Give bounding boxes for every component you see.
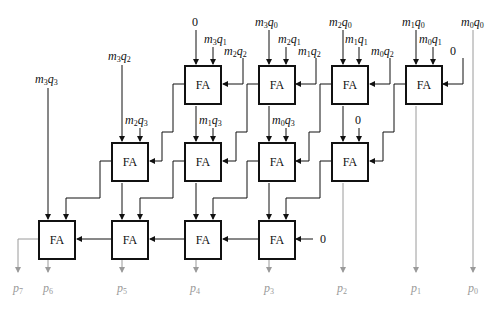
full-adder-r3-c2: FA (111, 220, 149, 260)
fa-label: FA (270, 155, 284, 170)
fa-label: FA (343, 78, 357, 93)
full-adder-r2-c1: FA (111, 142, 149, 182)
label-m2q2: m2q2 (224, 45, 247, 59)
label-m1q1: m1q1 (345, 33, 368, 47)
input-zero-r1c4: 0 (450, 45, 456, 57)
label-m0q1: m0q1 (419, 33, 442, 47)
label-m2q3: m2q3 (125, 114, 148, 128)
fa-label: FA (270, 233, 284, 248)
output-p2: p2 (337, 282, 347, 296)
full-adder-r1-c3: FA (331, 65, 369, 105)
full-adder-r3-c3: FA (184, 220, 222, 260)
fa-label: FA (196, 155, 210, 170)
full-adder-r1-c4: FA (405, 65, 443, 105)
full-adder-r2-c3: FA (258, 142, 296, 182)
full-adder-r1-c1: FA (184, 65, 222, 105)
full-adder-r2-c2: FA (184, 142, 222, 182)
full-adder-r3-c4: FA (258, 220, 296, 260)
fa-label: FA (270, 78, 284, 93)
label-m1q0: m1q0 (402, 16, 425, 30)
full-adder-r2-c4: FA (331, 142, 369, 182)
fa-label: FA (123, 155, 137, 170)
output-p6: p6 (43, 282, 53, 296)
input-zero-r2c4: 0 (355, 114, 361, 126)
array-multiplier-diagram: FA FA FA FA FA FA FA FA FA FA FA FA 0 m3… (0, 0, 503, 311)
output-p4: p4 (190, 282, 200, 296)
fa-label: FA (50, 233, 64, 248)
label-m1q3: m1q3 (199, 114, 222, 128)
fa-label: FA (123, 233, 137, 248)
fa-label: FA (196, 78, 210, 93)
output-p3: p3 (264, 282, 274, 296)
label-m0q0: m0q0 (461, 16, 484, 30)
fa-label: FA (417, 78, 431, 93)
full-adder-r3-c1: FA (38, 220, 76, 260)
label-m3q3: m3q3 (35, 73, 58, 87)
input-zero-r3c4: 0 (320, 233, 326, 245)
output-p0: p0 (468, 282, 478, 296)
output-p5: p5 (117, 282, 127, 296)
wire-in-r1c1-c (223, 58, 243, 84)
input-zero-r1c1: 0 (192, 16, 198, 28)
label-m0q2: m0q2 (371, 45, 394, 59)
fa-label: FA (343, 155, 357, 170)
label-m0q3: m0q3 (272, 114, 295, 128)
output-p1: p1 (411, 282, 421, 296)
output-p7: p7 (13, 282, 23, 296)
label-m2q0: m2q0 (329, 16, 352, 30)
label-m3q2: m3q2 (108, 50, 131, 64)
fa-label: FA (196, 233, 210, 248)
full-adder-r1-c2: FA (258, 65, 296, 105)
label-m3q0: m3q0 (255, 16, 278, 30)
label-m1q2: m1q2 (298, 45, 321, 59)
